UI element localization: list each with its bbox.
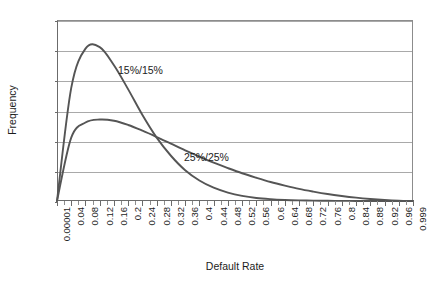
x-axis-tick-label: 0.44 bbox=[218, 207, 229, 226]
series-annotation-1: 15%/15% bbox=[118, 64, 163, 76]
x-axis-tick-minor bbox=[150, 201, 151, 205]
x-axis-tick-minor bbox=[335, 201, 336, 205]
x-axis-tick-label: 0.88 bbox=[374, 207, 385, 226]
x-axis-tick bbox=[57, 201, 58, 206]
x-axis-tick bbox=[100, 201, 101, 206]
x-axis-tick-label: 0.4 bbox=[203, 207, 214, 220]
x-axis-tick bbox=[313, 201, 314, 206]
x-axis-tick bbox=[242, 201, 243, 206]
x-axis-tick bbox=[385, 201, 386, 206]
x-axis-tick-label: 0.999 bbox=[417, 207, 428, 231]
x-axis-tick bbox=[157, 201, 158, 206]
x-axis-tick-minor bbox=[192, 201, 193, 205]
x-axis-tick-minor bbox=[263, 201, 264, 205]
x-axis-tick-label: 0.72 bbox=[317, 207, 328, 226]
x-axis-tick-label: 0.84 bbox=[360, 207, 371, 226]
x-axis-tick bbox=[285, 201, 286, 206]
curve-layer bbox=[57, 20, 413, 201]
x-axis-tick-minor bbox=[306, 201, 307, 205]
x-axis-tick-minor bbox=[406, 201, 407, 205]
x-axis-tick bbox=[142, 201, 143, 206]
chart-container: 0123456 0.000010.040.080.120.160.20.240.… bbox=[0, 0, 432, 281]
x-axis-tick-label: 0.92 bbox=[389, 207, 400, 226]
x-axis-tick-minor bbox=[235, 201, 236, 205]
x-axis-tick-minor bbox=[320, 201, 321, 205]
x-axis-title: Default Rate bbox=[57, 260, 413, 272]
x-axis-tick bbox=[342, 201, 343, 206]
x-axis-tick-minor bbox=[178, 201, 179, 205]
x-axis-tick bbox=[71, 201, 72, 206]
x-axis-tick bbox=[299, 201, 300, 206]
x-axis-tick bbox=[185, 201, 186, 206]
x-axis-tick bbox=[199, 201, 200, 206]
x-axis-tick-minor bbox=[392, 201, 393, 205]
x-axis-tick-label: 0.96 bbox=[403, 207, 414, 226]
x-axis-tick-label: 0.64 bbox=[289, 207, 300, 226]
x-axis-tick-minor bbox=[135, 201, 136, 205]
x-axis-tick-label: 0.56 bbox=[260, 207, 271, 226]
x-axis-tick-minor bbox=[249, 201, 250, 205]
x-axis-tick-minor bbox=[377, 201, 378, 205]
x-axis-tick-minor bbox=[78, 201, 79, 205]
x-axis-tick bbox=[171, 201, 172, 206]
x-axis-tick-label: 0.36 bbox=[189, 207, 200, 226]
x-axis-tick bbox=[271, 201, 272, 206]
y-axis-title: Frequency bbox=[6, 85, 18, 135]
x-axis-tick bbox=[370, 201, 371, 206]
x-axis-tick-minor bbox=[64, 201, 65, 205]
x-axis-tick bbox=[128, 201, 129, 206]
x-axis-tick-minor bbox=[121, 201, 122, 205]
x-axis-tick-minor bbox=[278, 201, 279, 205]
x-axis-tick-label: 0.04 bbox=[75, 207, 86, 226]
x-axis-tick-label: 0.2 bbox=[132, 207, 143, 220]
x-axis-tick bbox=[413, 201, 414, 206]
x-axis-tick-minor bbox=[221, 201, 222, 205]
x-axis-tick-label: 0.68 bbox=[303, 207, 314, 226]
x-axis-tick-label: 0.08 bbox=[89, 207, 100, 226]
x-axis-tick-minor bbox=[292, 201, 293, 205]
x-axis-tick-label: 0.6 bbox=[275, 207, 286, 220]
x-axis-tick-label: 0.32 bbox=[175, 207, 186, 226]
x-axis-tick-label: 0.76 bbox=[332, 207, 343, 226]
x-axis-tick bbox=[399, 201, 400, 206]
x-axis-tick-minor bbox=[349, 201, 350, 205]
series-annotation-2: 25%/25% bbox=[184, 151, 229, 163]
x-axis-tick-label: 0.12 bbox=[104, 207, 115, 226]
x-axis-tick bbox=[256, 201, 257, 206]
x-axis-tick bbox=[228, 201, 229, 206]
x-axis-tick-label: 0.28 bbox=[161, 207, 172, 226]
x-axis-tick-label: 0.52 bbox=[246, 207, 257, 226]
x-axis-tick-minor bbox=[93, 201, 94, 205]
x-axis-tick-minor bbox=[107, 201, 108, 205]
series-line-2 bbox=[57, 119, 413, 201]
series-line-1 bbox=[57, 44, 413, 201]
x-axis-tick bbox=[328, 201, 329, 206]
x-axis-tick-label: 0.24 bbox=[146, 207, 157, 226]
x-axis-labels: 0.000010.040.080.120.160.20.240.280.320.… bbox=[57, 207, 413, 255]
x-axis-tick-label: 0.16 bbox=[118, 207, 129, 226]
x-axis-tick-minor bbox=[164, 201, 165, 205]
x-axis-tick-minor bbox=[363, 201, 364, 205]
x-axis-tick bbox=[85, 201, 86, 206]
x-axis-tick bbox=[356, 201, 357, 206]
x-axis-tick-label: 0.00001 bbox=[61, 207, 72, 241]
x-axis-tick-label: 0.8 bbox=[346, 207, 357, 220]
x-axis-tick-minor bbox=[207, 201, 208, 205]
x-axis-tick-label: 0.48 bbox=[232, 207, 243, 226]
x-axis-tick bbox=[114, 201, 115, 206]
x-axis-tick bbox=[214, 201, 215, 206]
